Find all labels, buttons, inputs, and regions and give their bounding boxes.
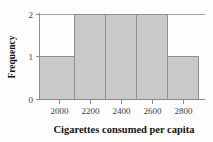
- chart-canvas: 0 1 2 2000 2200 2400 2600 2800 Cigarette…: [0, 0, 213, 142]
- y-tick-label-1: 1: [29, 52, 34, 62]
- bar-bin-5: [168, 57, 199, 100]
- x-tick-label-2200: 2200: [82, 106, 101, 116]
- y-tick-group: [36, 15, 40, 100]
- y-axis-title: Frequency: [7, 35, 17, 78]
- x-tick-group: [60, 100, 184, 104]
- x-tick-label-2600: 2600: [144, 106, 163, 116]
- bar-bin-4: [137, 15, 168, 100]
- y-tick-label-0: 0: [29, 95, 34, 105]
- x-tick-label-2800: 2800: [175, 106, 194, 116]
- y-tick-label-2: 2: [29, 10, 34, 20]
- x-tick-label-2000: 2000: [51, 106, 70, 116]
- histogram-figure: 0 1 2 2000 2200 2400 2600 2800 Cigarette…: [0, 0, 213, 142]
- x-axis-title: Cigarettes consumed per capita: [53, 124, 195, 135]
- bar-group: [40, 15, 199, 100]
- bar-bin-2: [75, 15, 106, 100]
- bar-bin-1: [40, 57, 75, 100]
- bar-bin-3: [106, 15, 137, 100]
- x-tick-label-2400: 2400: [113, 106, 132, 116]
